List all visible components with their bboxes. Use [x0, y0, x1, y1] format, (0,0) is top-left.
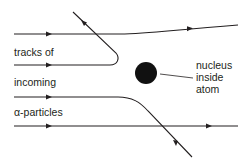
arrow-right-icon: [46, 63, 52, 68]
reflected-track: [14, 12, 118, 68]
nucleus-label-line3: atom: [196, 83, 220, 95]
nucleus-leader-line: [160, 74, 193, 78]
arrow-down-right-icon: [173, 140, 178, 146]
nucleus-label-line1: nucleus: [196, 59, 232, 71]
tracks-label-line1: tracks of: [14, 46, 54, 58]
bottom-track: [14, 124, 238, 129]
arrow-right-icon: [46, 95, 52, 100]
nucleus: [135, 62, 157, 84]
arrow-right-icon: [46, 124, 52, 129]
arrow-right-icon: [46, 32, 52, 37]
rutherford-scattering-diagram: tracks of incoming α-particles nucleus i…: [0, 0, 248, 167]
nucleus-label-line2: inside: [196, 71, 224, 83]
arrow-right-icon: [187, 26, 193, 31]
tracks-label-line2: incoming: [14, 76, 56, 88]
top-track: [14, 25, 238, 37]
arrow-right-icon: [206, 124, 212, 129]
tracks-label-line3: α-particles: [14, 106, 63, 118]
